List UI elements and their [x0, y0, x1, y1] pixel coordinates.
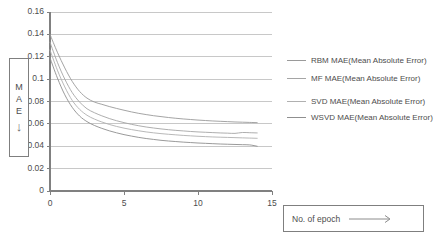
legend-label-2: SVD MAE(Mean Absolute Error): [311, 96, 425, 107]
x-axis-caption-box: No. of epoch: [283, 205, 424, 232]
y-axis-letter-e: E: [16, 106, 22, 117]
series-line-1: [50, 42, 257, 133]
legend-label-0: RBM MAE(Mean Absolute Error): [311, 55, 427, 66]
chart-figure: 00.020.040.060.080.10.120.140.16051015 M…: [0, 0, 436, 241]
legend-entry-0[interactable]: RBM MAE(Mean Absolute Error): [287, 55, 435, 66]
legend-swatch-3: [287, 117, 306, 118]
y-tick-label-1: 0.02: [27, 163, 44, 173]
right-arrow-icon: [349, 214, 395, 224]
x-tick-label-2: 10: [178, 198, 218, 208]
down-arrow-icon: ↓: [16, 120, 23, 133]
y-axis-caption-box: M A E ↓: [9, 58, 29, 157]
y-tick-label-7: 0.14: [27, 28, 44, 38]
y-axis-letter-m: M: [15, 82, 23, 93]
legend-swatch-2: [287, 101, 306, 102]
x-tick-label-0: 0: [30, 198, 70, 208]
legend-entry-1[interactable]: MF MAE(Mean Absolute Error): [287, 73, 435, 84]
y-tick-label-2: 0.04: [27, 140, 44, 150]
legend: RBM MAE(Mean Absolute Error)MF MAE(Mean …: [287, 55, 435, 128]
y-axis-letter-a: A: [16, 94, 22, 105]
y-tick-label-0: 0: [39, 185, 44, 195]
series-line-2: [50, 50, 257, 138]
series-line-0: [50, 34, 257, 122]
x-axis-label: No. of epoch: [292, 214, 340, 224]
y-tick-label-3: 0.06: [27, 118, 44, 128]
right-arrow-svg: [349, 214, 395, 224]
y-tick-label-8: 0.16: [27, 6, 44, 16]
legend-entry-2[interactable]: SVD MAE(Mean Absolute Error): [287, 96, 435, 107]
legend-swatch-1: [287, 78, 306, 79]
legend-entry-3[interactable]: WSVD MAE(Mean Absolute Error): [287, 112, 435, 123]
legend-label-3: WSVD MAE(Mean Absolute Error): [311, 112, 433, 123]
y-tick-label-5: 0.1: [32, 73, 44, 83]
y-tick-label-6: 0.12: [27, 51, 44, 61]
legend-swatch-0: [287, 60, 306, 61]
legend-label-1: MF MAE(Mean Absolute Error): [311, 73, 420, 84]
y-tick-label-4: 0.08: [27, 96, 44, 106]
plot-area: 00.020.040.060.080.10.120.140.16051015: [0, 0, 290, 215]
x-tick-label-1: 5: [104, 198, 144, 208]
